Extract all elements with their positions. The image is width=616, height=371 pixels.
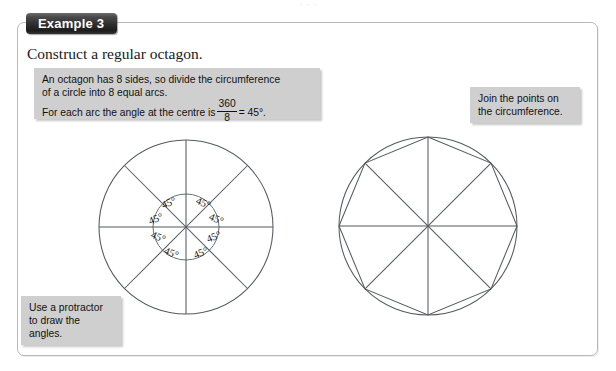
callout-line: angles. — [29, 327, 113, 340]
fraction-denominator: 8 — [217, 113, 236, 124]
callout-line-with-fraction: For each arc the angle at the centre is3… — [42, 99, 312, 123]
callout-octagon-arcs: An octagon has 8 sides, so divide the ci… — [34, 68, 320, 119]
callout-line: Join the points on — [478, 92, 572, 105]
callout-line: of a circle into 8 equal arcs. — [42, 86, 312, 99]
right-radii — [339, 137, 517, 315]
example-tab: Example 3 — [26, 13, 117, 34]
callout-line-prefix: For each arc the angle at the centre is — [42, 108, 215, 119]
example-tab-label: Example 3 — [38, 16, 104, 31]
callout-line: the circumference. — [478, 105, 572, 118]
callout-line: Use a protractor — [29, 301, 113, 314]
callout-line: to draw the — [29, 314, 113, 327]
fraction-numerator: 360 — [217, 99, 236, 110]
callout-line: An octagon has 8 sides, so divide the ci… — [42, 73, 312, 86]
callout-protractor: Use a protractor to draw the angles. — [21, 296, 121, 345]
callout-line-suffix: = 45°. — [239, 108, 266, 119]
callout-join-points: Join the points on the circumference. — [470, 87, 580, 123]
fraction-360-over-8: 3608 — [217, 99, 236, 123]
